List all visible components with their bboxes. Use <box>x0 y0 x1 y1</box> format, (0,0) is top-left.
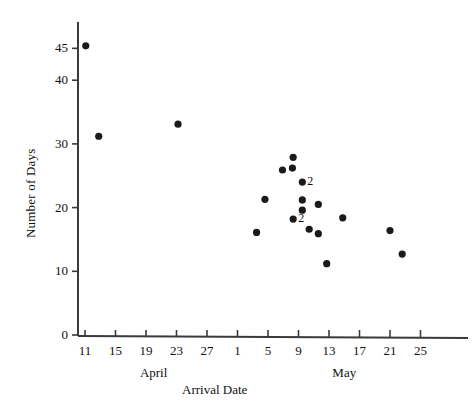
data-point <box>290 215 297 222</box>
month-label: April <box>124 366 184 379</box>
x-tick-label: 25 <box>401 344 441 357</box>
month-label: May <box>314 366 374 379</box>
y-tick-label: 30 <box>34 137 68 150</box>
y-axis-title: Number of Days <box>24 149 37 238</box>
y-tick-label: 0 <box>34 328 68 341</box>
data-point <box>386 227 393 234</box>
y-tick-label: 45 <box>34 41 68 54</box>
data-point <box>315 201 322 208</box>
data-point <box>279 166 286 173</box>
y-tick-label: 10 <box>34 264 68 277</box>
data-point <box>323 260 330 267</box>
data-point <box>290 154 297 161</box>
data-point-group <box>82 42 406 267</box>
data-point <box>261 196 268 203</box>
data-point <box>253 229 260 236</box>
data-point-count-label: 2 <box>298 212 304 224</box>
data-point <box>289 165 296 172</box>
data-point <box>399 251 406 258</box>
y-tick-label: 20 <box>34 201 68 214</box>
y-tick-label: 40 <box>34 73 68 86</box>
data-point <box>82 42 89 49</box>
data-point <box>174 121 181 128</box>
x-axis-line <box>78 336 468 338</box>
data-point <box>315 230 322 237</box>
data-point-count-label: 2 <box>307 175 313 187</box>
data-point <box>299 179 306 186</box>
data-point <box>339 214 346 221</box>
x-axis-title: Arrival Date <box>182 383 247 396</box>
data-point <box>306 226 313 233</box>
data-point <box>299 196 306 203</box>
scatter-plot-figure: 01020304045 111519232715913172125 AprilM… <box>0 0 475 408</box>
data-point <box>95 133 102 140</box>
